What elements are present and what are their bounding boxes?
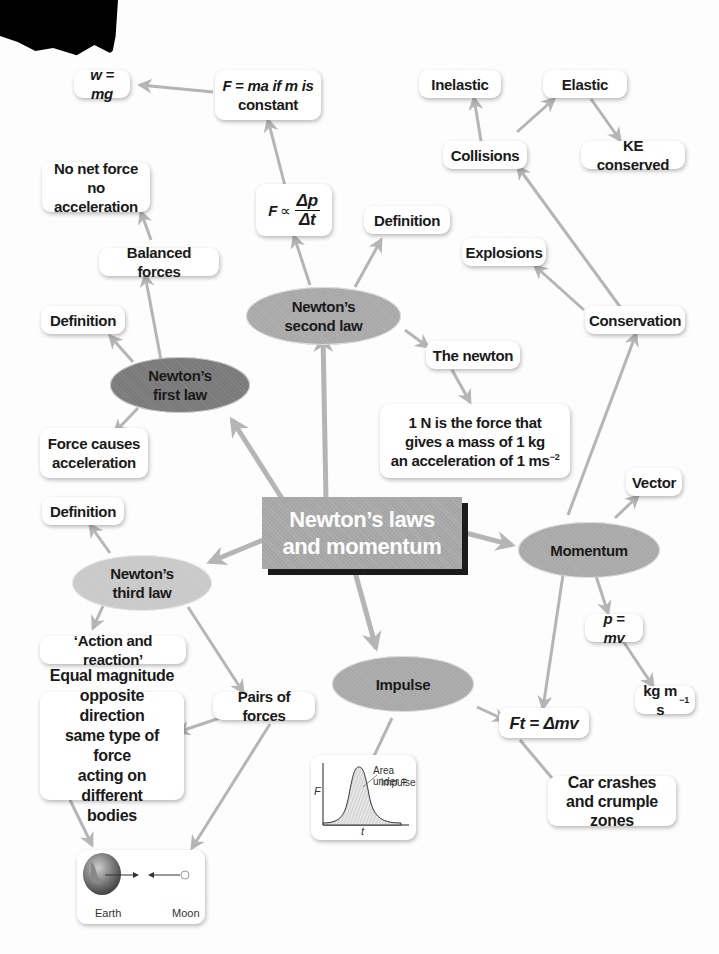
second-law-line2: second law <box>285 316 363 335</box>
graph-x-label: t <box>361 825 364 837</box>
graph-y-label: F <box>314 785 321 797</box>
earth-icon <box>83 853 121 895</box>
equal-mag-line4: acting on different <box>46 766 178 806</box>
balanced-forces-text: Balanced forces <box>105 243 213 281</box>
third-law-definition-text: Definition <box>50 502 116 521</box>
impulse-graph-card: F t Area under = impulse <box>311 755 416 840</box>
force-causes-line2: acceleration <box>52 453 136 472</box>
ke-conserved-text: KE conserved <box>587 136 679 174</box>
no-net-force-line2: no acceleration <box>48 178 144 216</box>
first-law-line2: first law <box>153 385 207 404</box>
equal-mag-line5: bodies <box>87 806 137 826</box>
elastic-text: Elastic <box>562 75 608 94</box>
moon-label: Moon <box>172 907 200 919</box>
car-crashes-line2: and crumple zones <box>554 792 670 830</box>
action-reaction-box: ‘Action and reaction’ <box>40 636 186 664</box>
momentum-formula-text: p = mv <box>591 609 637 647</box>
equal-mag-line3: same type of force <box>46 726 178 766</box>
conservation-text: Conservation <box>589 311 681 330</box>
inelastic-text: Inelastic <box>431 75 488 94</box>
newtons-second-law-node: Newton’s second law <box>246 287 401 345</box>
the-newton-box: The newton <box>426 341 520 369</box>
delta-p-over-delta-t: Δp Δt <box>295 192 320 229</box>
third-law-line2: third law <box>113 583 172 602</box>
force-symbol: F <box>268 201 277 220</box>
first-law-definition-text: Definition <box>50 311 116 330</box>
car-crashes-line1: Car crashes <box>568 773 656 792</box>
fraction-denominator: Δt <box>299 211 315 229</box>
action-reaction-text: ‘Action and reaction’ <box>46 631 180 669</box>
impulse-node: Impulse <box>332 656 474 712</box>
proportional-symbol: ∝ <box>280 201 290 220</box>
momentum-formula-box: p = mv <box>585 614 643 642</box>
car-crashes-box: Car crashes and crumple zones <box>548 776 676 826</box>
third-law-line1: Newton’s <box>110 564 174 583</box>
earth-moon-card: Earth Moon <box>77 850 205 924</box>
newtons-third-law-node: Newton’s third law <box>72 555 212 611</box>
newtons-first-law-node: Newton’s first law <box>110 357 250 413</box>
momentum-label: Momentum <box>550 541 628 560</box>
collisions-text: Collisions <box>451 146 520 165</box>
third-law-definition-box: Definition <box>42 497 124 525</box>
no-net-force-box: No net force no acceleration <box>42 162 150 212</box>
graph-annotation-line2: impulse <box>381 777 415 788</box>
force-causes-line1: Force causes <box>48 434 140 453</box>
second-law-definition-text: Definition <box>374 211 440 230</box>
weight-formula-box: w = mg <box>74 70 130 98</box>
momentum-units-text: kg m s <box>641 681 679 719</box>
newton-def-line3-text: an acceleration of 1 ms <box>391 452 550 469</box>
conservation-box: Conservation <box>585 306 685 334</box>
impulse-formula-box: Ft = Δmv <box>499 708 589 738</box>
central-topic: Newton’s laws and momentum <box>262 497 462 569</box>
first-law-line1: Newton’s <box>148 366 212 385</box>
pairs-of-forces-text: Pairs of forces <box>219 687 309 725</box>
central-title-line2: and momentum <box>283 533 442 560</box>
impulse-formula-text: Ft = Δmv <box>509 714 578 733</box>
fraction-numerator: Δp <box>295 192 320 211</box>
explosions-text: Explosions <box>465 243 542 262</box>
newton-def-line1: 1 N is the force that <box>409 413 542 432</box>
ke-conserved-box: KE conserved <box>581 141 685 169</box>
equal-mag-line2: opposite direction <box>46 686 178 726</box>
collisions-box: Collisions <box>443 141 527 169</box>
pairs-of-forces-box: Pairs of forces <box>213 692 315 720</box>
f-equals-ma-line2: constant <box>238 95 298 114</box>
central-title-line1: Newton’s laws <box>283 506 442 533</box>
newton-def-line3: an acceleration of 1 ms−2 <box>391 451 560 470</box>
elastic-box: Elastic <box>543 70 627 98</box>
inelastic-box: Inelastic <box>419 70 501 98</box>
second-law-definition-box: Definition <box>364 206 450 234</box>
the-newton-text: The newton <box>433 346 513 365</box>
no-net-force-line1: No net force <box>54 159 138 178</box>
earth-label: Earth <box>95 907 121 919</box>
newton-def-line2: gives a mass of 1 kg <box>405 432 545 451</box>
first-law-definition-box: Definition <box>41 306 125 334</box>
newton-definition-box: 1 N is the force that gives a mass of 1 … <box>380 404 570 478</box>
newton-def-exponent: −2 <box>550 452 560 462</box>
vector-box: Vector <box>626 468 682 496</box>
impulse-label: Impulse <box>376 675 431 694</box>
f-equals-ma-box: F = ma if m is constant <box>215 70 321 120</box>
second-law-line1: Newton’s <box>292 297 356 316</box>
momentum-units-box: kg m s−1 <box>635 686 695 714</box>
explosions-box: Explosions <box>462 238 546 266</box>
equal-mag-line1: Equal magnitude <box>50 666 174 686</box>
force-causes-acceleration-box: Force causes acceleration <box>40 428 148 478</box>
balanced-forces-box: Balanced forces <box>99 248 219 276</box>
moon-icon <box>181 871 189 879</box>
vector-text: Vector <box>632 473 676 492</box>
f-equals-ma-line1: F = ma if m is <box>222 76 313 95</box>
equal-magnitude-box: Equal magnitude opposite direction same … <box>40 692 184 800</box>
weight-formula-text: w = mg <box>80 65 124 103</box>
momentum-node: Momentum <box>518 522 660 578</box>
force-proportional-box: F ∝ Δp Δt <box>256 184 332 236</box>
